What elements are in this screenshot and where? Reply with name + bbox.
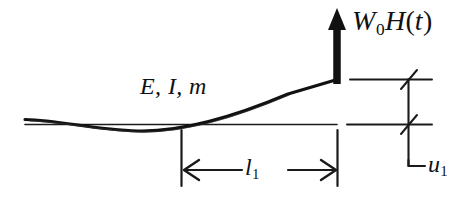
load-arrow bbox=[328, 8, 346, 84]
length-subscript: 1 bbox=[252, 166, 260, 182]
length-symbol: l bbox=[245, 154, 252, 180]
load-step-function: H bbox=[385, 5, 406, 36]
load-symbol: W bbox=[352, 5, 376, 36]
beam-deflection-figure: W0H(t) E, I, m l1 u1 bbox=[0, 0, 472, 210]
load-close-paren: ) bbox=[423, 5, 432, 36]
displacement-dimension bbox=[347, 70, 432, 166]
load-subscript: 0 bbox=[376, 20, 385, 39]
load-label: W0H(t) bbox=[352, 7, 432, 39]
deflected-beam-curve-shadow bbox=[30, 95, 289, 132]
displacement-subscript: 1 bbox=[440, 163, 448, 179]
displacement-dimension-label: u1 bbox=[428, 152, 448, 179]
youngs-modulus-symbol: E, bbox=[140, 73, 161, 99]
beam-properties-label: E, I, m bbox=[140, 74, 207, 98]
displacement-leader-line bbox=[409, 160, 426, 166]
mass-per-length-symbol: m bbox=[189, 73, 207, 99]
load-argument: t bbox=[415, 5, 423, 36]
load-arrow-head bbox=[328, 8, 346, 30]
second-moment-symbol: I, bbox=[168, 73, 183, 99]
length-dimension-label: l1 bbox=[245, 155, 259, 182]
load-open-paren: ( bbox=[405, 5, 414, 36]
length-dimension bbox=[182, 130, 338, 186]
displacement-symbol: u bbox=[428, 151, 440, 177]
